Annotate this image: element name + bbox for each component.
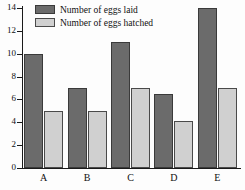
y-axis-tick-label: 0 <box>0 163 16 172</box>
bar-e-eggs-hatched <box>218 88 237 168</box>
x-axis-label-e: E <box>196 172 239 184</box>
bar-e-eggs-laid <box>198 8 217 168</box>
legend-swatch-icon-eggs-hatched <box>35 18 55 27</box>
x-axis-label-d: D <box>152 172 195 184</box>
legend-label-eggs-hatched: Number of eggs hatched <box>60 18 153 28</box>
legend-item-eggs-hatched: Number of eggs hatched <box>35 17 153 28</box>
bar-a-eggs-laid <box>24 54 43 168</box>
bar-d-eggs-laid <box>154 94 173 168</box>
y-axis-tick-label: 8 <box>0 72 16 81</box>
y-axis-tick-label: 12 <box>0 26 16 35</box>
x-axis-line <box>20 168 241 169</box>
bar-c-eggs-hatched <box>131 88 150 168</box>
legend-label-eggs-laid: Number of eggs laid <box>60 5 138 15</box>
legend-swatch-icon-eggs-laid <box>35 5 55 14</box>
bar-chart: 02468101214 ABCDE Number of eggs laid Nu… <box>0 0 245 190</box>
y-axis-tick-label: 4 <box>0 117 16 126</box>
bar-a-eggs-hatched <box>44 111 63 168</box>
legend-item-eggs-laid: Number of eggs laid <box>35 4 153 15</box>
x-axis-label-a: A <box>22 172 65 184</box>
y-axis-tick-label: 14 <box>0 3 16 12</box>
x-axis-label-b: B <box>65 172 108 184</box>
bar-b-eggs-laid <box>68 88 87 168</box>
y-axis-tick-label: 6 <box>0 94 16 103</box>
y-axis-tick-label: 10 <box>0 49 16 58</box>
plot-area <box>22 8 239 168</box>
chart-legend: Number of eggs laid Number of eggs hatch… <box>35 4 153 28</box>
y-axis-tick-label: 2 <box>0 140 16 149</box>
bar-c-eggs-laid <box>111 42 130 168</box>
bar-d-eggs-hatched <box>174 121 193 168</box>
bar-b-eggs-hatched <box>88 111 107 168</box>
x-axis-label-c: C <box>109 172 152 184</box>
